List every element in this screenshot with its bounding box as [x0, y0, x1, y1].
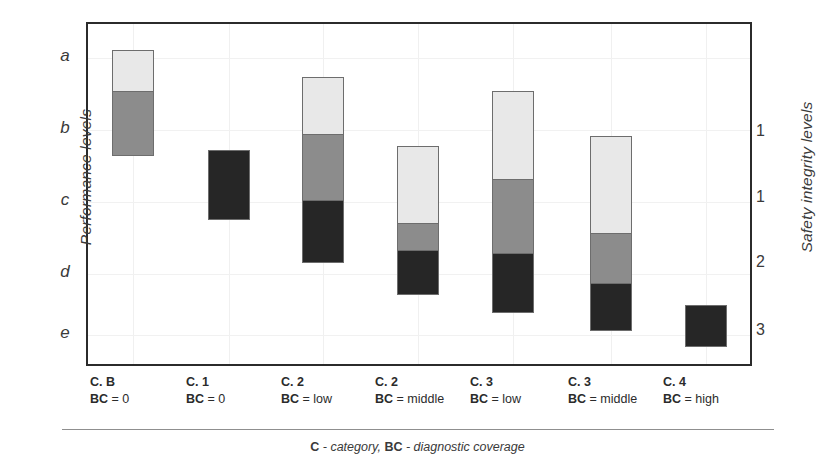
footer-caption: C - category, BC - diagnostic coverage	[0, 440, 835, 454]
x-label-coverage-key: BC	[281, 392, 299, 406]
chart-bar	[685, 305, 727, 347]
bar-segment-mid	[112, 91, 154, 156]
x-label-coverage-value: = 0	[204, 392, 225, 406]
x-label-coverage-value: = middle	[586, 392, 637, 406]
footer-key-c: C	[310, 440, 319, 454]
chart-bar	[590, 136, 632, 333]
x-label-coverage-key: BC	[90, 392, 108, 406]
y-axis-left-tick-b: b	[48, 118, 82, 138]
bar-segment-light	[302, 77, 344, 135]
chart-bar	[397, 146, 439, 297]
bar-segment-dark	[685, 305, 727, 347]
y-axis-left-tick-a: a	[48, 46, 82, 66]
x-label-coverage-value: = low	[488, 392, 521, 406]
x-label-coverage-value: = middle	[393, 392, 444, 406]
y-axis-left-ticks: abcde	[44, 22, 82, 366]
footer-text-end: - diagnostic coverage	[402, 440, 524, 454]
horizontal-gridline	[88, 335, 750, 336]
y-axis-left-tick-d: d	[48, 262, 82, 282]
bar-segment-light	[492, 91, 534, 180]
bar-segment-light	[112, 50, 154, 92]
bar-segment-light	[590, 136, 632, 234]
x-label-coverage-key: BC	[568, 392, 586, 406]
x-label-coverage-key: BC	[663, 392, 681, 406]
x-label-coverage-key: BC	[375, 392, 393, 406]
chart-bar	[302, 77, 344, 265]
x-label-coverage-key: BC	[186, 392, 204, 406]
footer-divider	[62, 429, 774, 430]
horizontal-gridline	[88, 58, 750, 59]
bar-segment-dark	[302, 200, 344, 263]
x-label-coverage: BC = high	[663, 391, 783, 408]
bar-segment-light	[397, 146, 439, 224]
bar-segment-mid	[590, 233, 632, 284]
x-label-coverage-value: = high	[681, 392, 719, 406]
bar-segment-dark	[492, 253, 534, 313]
bar-segment-dark	[397, 250, 439, 295]
bar-segment-dark	[590, 283, 632, 331]
y-axis-right-tick-3: 3	[756, 321, 782, 339]
y-axis-left-tick-e: e	[48, 323, 82, 343]
y-axis-right-title: Safety integrity levels	[798, 77, 816, 277]
y-axis-left-tick-c: c	[48, 190, 82, 210]
footer-key-bc: BC	[384, 440, 402, 454]
bar-segment-mid	[302, 134, 344, 201]
x-axis-category-labels: C. BBC = 0C. 1BC = 0C. 2BC = lowC. 2BC =…	[86, 374, 752, 418]
y-axis-right-tick-1: 1	[756, 188, 782, 206]
x-label-category: C. 4	[663, 374, 783, 391]
chart-bar	[492, 91, 534, 315]
chart-bar	[208, 150, 250, 220]
y-axis-right-tick-2: 2	[756, 253, 782, 271]
chart-plot-area	[86, 22, 752, 366]
y-axis-right-ticks: 1123	[756, 22, 786, 366]
x-label-coverage-value: = 0	[108, 392, 129, 406]
x-axis-category-label: C. 4BC = high	[663, 374, 783, 408]
bar-segment-dark	[208, 150, 250, 220]
chart-plot-inner	[88, 24, 750, 364]
chart-bar	[112, 50, 154, 157]
x-label-coverage-key: BC	[470, 392, 488, 406]
x-label-coverage-value: = low	[299, 392, 332, 406]
bar-segment-mid	[492, 179, 534, 254]
footer-text-mid: - category,	[319, 440, 384, 454]
y-axis-right-tick-0: 1	[756, 122, 782, 140]
bar-segment-mid	[397, 223, 439, 251]
horizontal-gridline	[88, 130, 750, 131]
